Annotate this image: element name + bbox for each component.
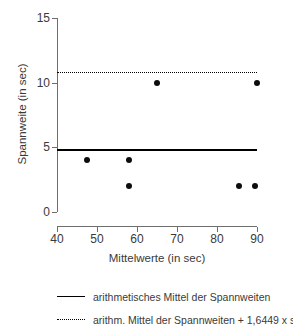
data-point <box>84 157 90 163</box>
y-axis-title: Spannweite (in sec) <box>16 34 28 194</box>
legend-dotted-line-icon <box>57 315 85 325</box>
reference-line-dotted <box>57 72 257 73</box>
plot-area: 051015 405060708090 Spannweite (in sec) … <box>0 0 293 248</box>
x-axis-title: Mittelwerte (in sec) <box>57 252 257 265</box>
data-point <box>252 183 258 189</box>
scatter-chart-figure: 051015 405060708090 Spannweite (in sec) … <box>0 0 293 333</box>
data-point <box>126 157 132 163</box>
x-tick-label: 40 <box>42 233 72 246</box>
y-tick <box>52 212 57 213</box>
x-axis-spine <box>57 226 257 227</box>
x-tick-label: 60 <box>122 233 152 246</box>
x-tick-label: 70 <box>162 233 192 246</box>
y-tick-label: 15 <box>20 12 50 24</box>
chart-legend: arithmetisches Mittel der Spannweitenari… <box>0 285 293 331</box>
legend-item: arithm. Mittel der Spannweiten + 1,6449 … <box>0 308 293 331</box>
legend-solid-line-icon <box>57 292 85 302</box>
data-point <box>126 183 132 189</box>
legend-item: arithmetisches Mittel der Spannweiten <box>0 285 293 308</box>
legend-label: arithm. Mittel der Spannweiten + 1,6449 … <box>93 314 293 326</box>
y-tick-label: 0 <box>20 206 50 218</box>
x-tick-label: 80 <box>202 233 232 246</box>
x-tick-label: 90 <box>242 233 272 246</box>
data-point <box>154 80 160 86</box>
legend-label: arithmetisches Mittel der Spannweiten <box>93 291 270 303</box>
reference-line-solid <box>57 149 257 150</box>
data-point <box>236 183 242 189</box>
data-point <box>254 80 260 86</box>
data-layer <box>57 18 257 212</box>
x-tick-label: 50 <box>82 233 112 246</box>
